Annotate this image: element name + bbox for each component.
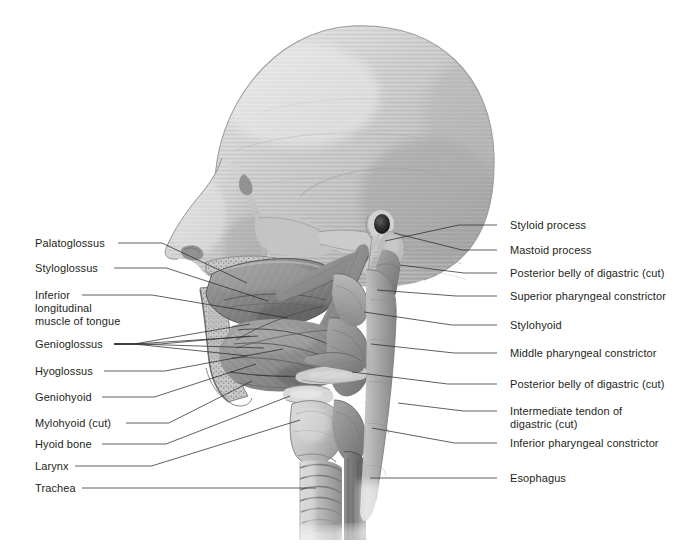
leader-hyoglossus [104, 349, 283, 371]
label-line: Mylohyoid (cut) [35, 417, 111, 430]
label-superior-pharyngeal-constrictor: Superior pharyngeal constrictor [510, 290, 666, 303]
label-line: Posterior belly of digastric (cut) [510, 267, 664, 280]
leader-styloid-process [385, 225, 497, 241]
label-line: Styloglossus [35, 262, 98, 275]
label-esophagus: Esophagus [510, 472, 566, 485]
label-middle-pharyngeal-constrictor: Middle pharyngeal constrictor [510, 347, 657, 360]
leader-inferior-pharyngeal-constrictor [372, 428, 497, 443]
label-trachea: Trachea [35, 482, 76, 495]
label-geniohyoid: Geniohyoid [35, 391, 92, 404]
label-intermediate-tendon-of-digastric-cut: Intermediate tendon ofdigastric (cut) [510, 405, 622, 431]
label-mylohyoid-cut: Mylohyoid (cut) [35, 417, 111, 430]
label-line: Superior pharyngeal constrictor [510, 290, 666, 303]
label-line: Hyoid bone [35, 438, 92, 451]
label-hyoid-bone: Hyoid bone [35, 438, 92, 451]
label-posterior-belly-digastric-cut-lower: Posterior belly of digastric (cut) [510, 378, 664, 391]
leader-geniohyoid [102, 364, 256, 397]
leader-posterior-belly-digastric-cut-lower [352, 372, 497, 384]
label-line: Hyoglossus [35, 365, 93, 378]
leader-hyoid-bone [102, 396, 290, 444]
leader-posterior-belly-digastric-cut-upper [400, 265, 497, 273]
label-line: Mastoid process [510, 244, 592, 257]
label-line: Inferior [35, 289, 120, 302]
label-stylohyoid: Stylohyoid [510, 319, 562, 332]
label-inferior-pharyngeal-constrictor: Inferior pharyngeal constrictor [510, 437, 659, 450]
leader-mylohyoid-cut [126, 381, 252, 423]
label-inferior-longitudinal-muscle-of-tongue: Inferiorlongitudinalmuscle of tongue [35, 289, 120, 329]
label-mastoid-process: Mastoid process [510, 244, 592, 257]
label-line: Posterior belly of digastric (cut) [510, 378, 664, 391]
label-line: Esophagus [510, 472, 566, 485]
figure-canvas: PalatoglossusStyloglossusInferiorlongitu… [0, 0, 692, 551]
label-line: Inferior pharyngeal constrictor [510, 437, 659, 450]
label-larynx: Larynx [35, 460, 69, 473]
leader-superior-pharyngeal-constrictor [377, 290, 497, 296]
label-line: longitudinal [35, 302, 120, 315]
label-styloid-process: Styloid process [510, 219, 586, 232]
label-posterior-belly-digastric-cut-upper: Posterior belly of digastric (cut) [510, 267, 664, 280]
label-palatoglossus: Palatoglossus [35, 237, 105, 250]
label-line: Stylohyoid [510, 319, 562, 332]
leader-genioglossus [114, 336, 250, 344]
label-styloglossus: Styloglossus [35, 262, 98, 275]
label-line: Genioglossus [35, 338, 103, 351]
label-line: muscle of tongue [35, 315, 120, 328]
leader-genioglossus-branch-2 [114, 336, 258, 344]
label-hyoglossus: Hyoglossus [35, 365, 93, 378]
label-line: Geniohyoid [35, 391, 92, 404]
label-line: Palatoglossus [35, 237, 105, 250]
label-line: Larynx [35, 460, 69, 473]
label-line: Trachea [35, 482, 76, 495]
leader-intermediate-tendon-of-digastric-cut [398, 403, 497, 411]
label-line: Intermediate tendon of [510, 405, 622, 418]
leader-stylohyoid [364, 312, 497, 325]
leader-middle-pharyngeal-constrictor [371, 344, 497, 353]
leader-styloglossus [114, 268, 268, 301]
label-line: Styloid process [510, 219, 586, 232]
leader-palatoglossus [118, 243, 247, 283]
label-line: digastric (cut) [510, 418, 622, 431]
label-line: Middle pharyngeal constrictor [510, 347, 657, 360]
label-genioglossus: Genioglossus [35, 338, 103, 351]
